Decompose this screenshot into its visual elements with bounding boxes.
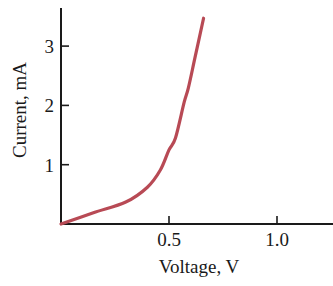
y-axis-title: Current, mA [9, 62, 30, 158]
y-tick-label: 1 [45, 155, 55, 176]
y-tick-label: 3 [45, 36, 55, 57]
x-axis-ticks: 0.51.0 [157, 216, 289, 250]
iv-curve-line [61, 18, 204, 224]
iv-curve-chart: 123 0.51.0 Voltage, V Current, mA [0, 0, 333, 286]
y-axis-ticks: 123 [45, 36, 70, 176]
x-tick-label: 1.0 [265, 229, 289, 250]
axes [60, 8, 333, 225]
y-tick-label: 2 [45, 95, 55, 116]
data-series [61, 18, 204, 224]
x-axis-title: Voltage, V [159, 256, 240, 277]
x-tick-label: 0.5 [157, 229, 181, 250]
